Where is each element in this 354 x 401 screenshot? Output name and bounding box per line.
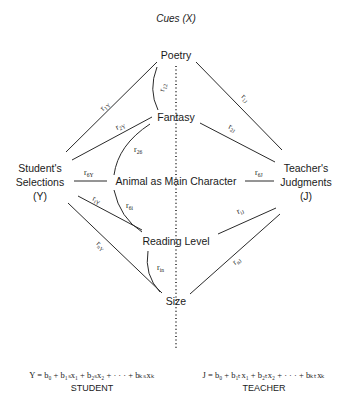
student-equation-label: STUDENT: [71, 383, 114, 393]
student-line1: Student's: [18, 162, 61, 174]
cue-fantasy: Fantasy: [157, 111, 195, 123]
label-r6i: r6i: [126, 201, 133, 211]
label-r26: r26: [134, 145, 142, 155]
arc-animal-reading: [114, 190, 142, 232]
teacher-line2: Judgments: [280, 176, 331, 188]
teacher-equation-label: TEACHER: [242, 383, 286, 393]
teacher-equation: J = b₀ + b₁ₜx₁ + b₂ₜx₂ + · · · + bₖₜxₖ: [203, 370, 326, 380]
label-riJ: riJ: [235, 205, 246, 217]
label-r2J: r2J: [227, 122, 239, 135]
label-rin: rin: [157, 263, 164, 273]
label-rnY: rnY: [94, 239, 108, 253]
cue-reading-level: Reading Level: [142, 235, 209, 247]
teacher-line1: Teacher's: [284, 162, 329, 174]
cue-size: Size: [166, 295, 187, 307]
edge-fantasy-teacher: [200, 123, 275, 162]
arc-fantasy-animal: [114, 124, 150, 175]
diagram-title: Cues (X): [156, 13, 195, 24]
student-equation: Y = b₀ + b₁ₛx₁ + b₂ₛx₂ + · · · + bₖₛxₖ: [29, 370, 154, 380]
student-line2: Selections: [16, 176, 64, 188]
student-line3: (Y): [33, 190, 47, 202]
cue-poetry: Poetry: [161, 49, 192, 61]
label-r2Y: r2Y: [114, 119, 127, 132]
label-r6Y: r6Y: [84, 168, 93, 178]
label-r1Y: r1Y: [98, 99, 112, 113]
edge-poetry-teacher: [196, 62, 282, 150]
teacher-line3: (J): [300, 190, 312, 202]
label-r1J: r1J: [239, 92, 252, 105]
label-riY: riY: [91, 194, 103, 207]
edge-reading-teacher: [218, 208, 276, 234]
edge-size-student: [68, 203, 162, 293]
label-r6J: r6J: [255, 168, 263, 178]
label-r12: r12: [157, 82, 168, 92]
student-selections-node: Student's Selections (Y): [16, 162, 64, 202]
teacher-judgments-node: Teacher's Judgments (J): [280, 162, 331, 202]
cue-animal-main-character: Animal as Main Character: [116, 175, 237, 187]
lens-model-diagram: Cues (X) Poetry Fantasy Animal as Main C…: [0, 0, 354, 401]
